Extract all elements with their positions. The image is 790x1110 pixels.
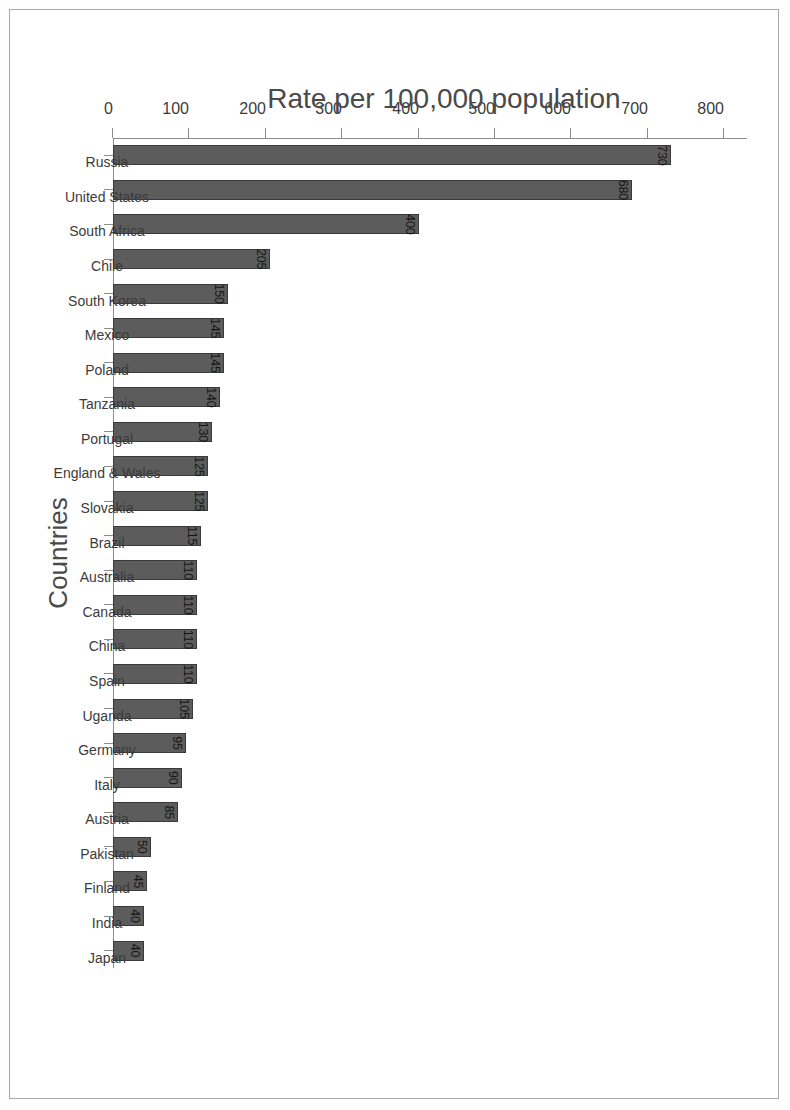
chart-rotation-wrapper: 0100200300400500600700800 73068040020515…: [0, 0, 790, 1110]
value-tick: [494, 128, 495, 138]
bar-value-label: 110: [182, 664, 195, 683]
category-label: Slovakia: [81, 501, 134, 515]
value-tick: [570, 128, 571, 138]
bar: 400: [113, 214, 419, 234]
bar-cell: 40: [113, 899, 747, 934]
bar-value-label: 145: [208, 318, 221, 338]
bar-value-label: 125: [193, 456, 206, 476]
bar: 90: [113, 768, 182, 788]
bar: 730: [113, 145, 671, 165]
bar-value-label: 110: [182, 595, 195, 614]
category-label: Italy: [94, 778, 120, 792]
bar-cell: 50: [113, 830, 747, 865]
bar-cell: 145: [113, 345, 747, 380]
chart-page: 0100200300400500600700800 73068040020515…: [0, 0, 790, 1110]
category-label: Austria: [85, 812, 129, 826]
bar-value-label: 730: [655, 145, 668, 165]
category-label: South Africa: [69, 224, 145, 238]
bar-cell: 95: [113, 726, 747, 761]
value-tick: [723, 128, 724, 138]
bar-value-label: 150: [212, 283, 225, 303]
bar-cell: 680: [113, 173, 747, 208]
bar-cell: 110: [113, 588, 747, 623]
value-tick: [265, 128, 266, 138]
category-label: Finland: [84, 881, 130, 895]
category-label: Poland: [85, 363, 129, 377]
bar-cell: 105: [113, 691, 747, 726]
value-tick-label-anchor: 100: [188, 124, 189, 125]
bar-cell: 110: [113, 657, 747, 692]
bar-value-label: 205: [254, 249, 267, 269]
bar-value-label: 40: [128, 909, 141, 923]
category-label: Pakistan: [80, 847, 134, 861]
bar-value-label: 130: [197, 422, 210, 442]
bar-value-label: 400: [403, 214, 416, 234]
bar: 205: [113, 249, 270, 269]
value-tick-label-anchor: 800: [723, 124, 724, 125]
bar-cell: 150: [113, 276, 747, 311]
bar-cell: 85: [113, 795, 747, 830]
category-label: Spain: [89, 674, 125, 688]
bar-value-label: 140: [204, 387, 217, 407]
value-tick-label-anchor: 600: [570, 124, 571, 125]
bar-value-label: 50: [136, 840, 149, 854]
bar-cell: 145: [113, 311, 747, 346]
bar-cell: 40: [113, 933, 747, 968]
category-label: India: [92, 916, 122, 930]
bar-cell: 110: [113, 622, 747, 657]
bar-value-label: 115: [185, 526, 198, 545]
category-label: Portugal: [81, 432, 133, 446]
bar-value-label: 90: [166, 771, 179, 785]
bar: 145: [113, 353, 224, 373]
bar-series: 7306804002051501451451401301251251151101…: [113, 138, 747, 968]
value-tick-label-anchor: 200: [265, 124, 266, 125]
value-tick: [112, 128, 113, 138]
category-label: Mexico: [85, 328, 129, 342]
category-label: Canada: [82, 605, 131, 619]
bar-value-label: 125: [193, 491, 206, 511]
bar-cell: 110: [113, 553, 747, 588]
bar-cell: 400: [113, 207, 747, 242]
bar-value-label: 40: [128, 944, 141, 958]
bar-value-label: 105: [178, 698, 191, 718]
category-label: Uganda: [82, 709, 131, 723]
value-tick: [188, 128, 189, 138]
value-tick-label: 0: [104, 101, 113, 117]
y-axis-title: Rate per 100,000 population: [127, 85, 761, 113]
bar-value-label: 45: [132, 875, 145, 889]
value-tick: [418, 128, 419, 138]
value-tick-label-anchor: 0: [112, 124, 113, 125]
bar-value-label: 680: [617, 180, 630, 200]
value-tick-label-anchor: 300: [341, 124, 342, 125]
x-axis-title: Countries: [45, 138, 71, 968]
category-label: China: [89, 639, 126, 653]
bar: 680: [113, 180, 632, 200]
bar-cell: 115: [113, 518, 747, 553]
category-label: South Korea: [68, 294, 146, 308]
value-tick-label-anchor: 500: [494, 124, 495, 125]
bar-cell: 45: [113, 864, 747, 899]
bar: 145: [113, 318, 224, 338]
category-label: Australia: [80, 570, 134, 584]
category-label: Germany: [78, 743, 136, 757]
category-label: Russia: [86, 155, 129, 169]
category-label: United States: [65, 190, 149, 204]
bar-value-label: 85: [162, 806, 175, 820]
bar-value-label: 110: [182, 630, 195, 649]
category-label: Tanzania: [79, 397, 135, 411]
value-tick-label-anchor: 700: [647, 124, 648, 125]
value-tick-label-anchor: 400: [418, 124, 419, 125]
bar-value-label: 145: [208, 353, 221, 373]
bar-cell: 125: [113, 484, 747, 519]
bar-cell: 90: [113, 760, 747, 795]
category-label: Chile: [91, 259, 123, 273]
category-label: Brazil: [89, 536, 124, 550]
category-label: Japan: [88, 951, 126, 965]
bar-cell: 125: [113, 449, 747, 484]
bar-cell: 730: [113, 138, 747, 173]
value-tick: [647, 128, 648, 138]
bar-chart: 0100200300400500600700800 73068040020515…: [19, 20, 771, 1090]
plot-area: 0100200300400500600700800 73068040020515…: [113, 138, 747, 968]
bar-cell: 140: [113, 380, 747, 415]
value-tick: [341, 128, 342, 138]
